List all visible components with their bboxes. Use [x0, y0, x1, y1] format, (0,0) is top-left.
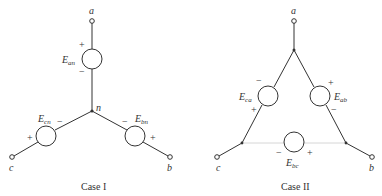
terminal-a-label: a [89, 5, 94, 16]
source-ab-label: Eab [333, 91, 348, 104]
case2-delta-diagram: a − + Eca + − Eab − + Ebc c b Case II [215, 5, 375, 192]
source-cn-label: Ecn [37, 113, 51, 126]
source-ca-icon [258, 86, 278, 106]
wire-c-lower [14, 142, 38, 156]
source-ab-minus: − [331, 104, 337, 115]
terminal-a-icon [292, 19, 297, 24]
source-bn-minus: − [122, 116, 128, 127]
terminal-c-label: c [9, 162, 14, 173]
source-bn-plus: + [150, 132, 156, 143]
terminal-b-icon [168, 155, 173, 160]
source-an-icon [82, 49, 102, 69]
source-bc-minus: − [276, 147, 282, 158]
case1-wye-diagram: a + − Ean n c + − Ecn b + − Ebn Case I [9, 5, 172, 192]
circuit-diagrams: a + − Ean n c + − Ecn b + − Ebn Case I a [0, 0, 382, 196]
wire-b-lead [346, 143, 370, 156]
source-cn-minus: − [57, 116, 63, 127]
wire-c-lead [219, 143, 242, 156]
terminal-a-label: a [291, 5, 296, 16]
source-an-minus: − [79, 66, 85, 77]
source-ca-label: Eca [238, 91, 252, 104]
source-bc-label: Ebc [285, 157, 300, 170]
wire-b-lower [143, 142, 168, 156]
neutral-label: n [96, 102, 101, 113]
source-ab-icon [310, 86, 330, 106]
source-bc-icon [284, 132, 304, 152]
terminal-c-label: c [216, 162, 221, 173]
source-ab-plus: + [328, 77, 334, 88]
terminal-c-icon [10, 155, 15, 160]
terminal-c-icon [215, 155, 220, 160]
source-ca-plus: + [251, 104, 257, 115]
source-cn-plus: + [27, 132, 33, 143]
source-an-plus: + [79, 39, 85, 50]
wire-ab-upper [294, 50, 314, 87]
case1-caption: Case I [81, 181, 106, 192]
wire-ca-upper [274, 50, 294, 87]
source-bn-label: Ebn [134, 113, 149, 126]
source-bn-icon [125, 126, 145, 146]
terminal-b-label: b [167, 162, 172, 173]
terminal-b-label: b [369, 162, 374, 173]
terminal-b-icon [370, 155, 375, 160]
terminal-a-icon [90, 19, 95, 24]
case2-caption: Case II [281, 181, 310, 192]
source-an-label: Ean [61, 54, 76, 67]
source-bc-plus: + [307, 147, 313, 158]
source-cn-icon [36, 126, 56, 146]
source-ca-minus: − [256, 75, 262, 86]
